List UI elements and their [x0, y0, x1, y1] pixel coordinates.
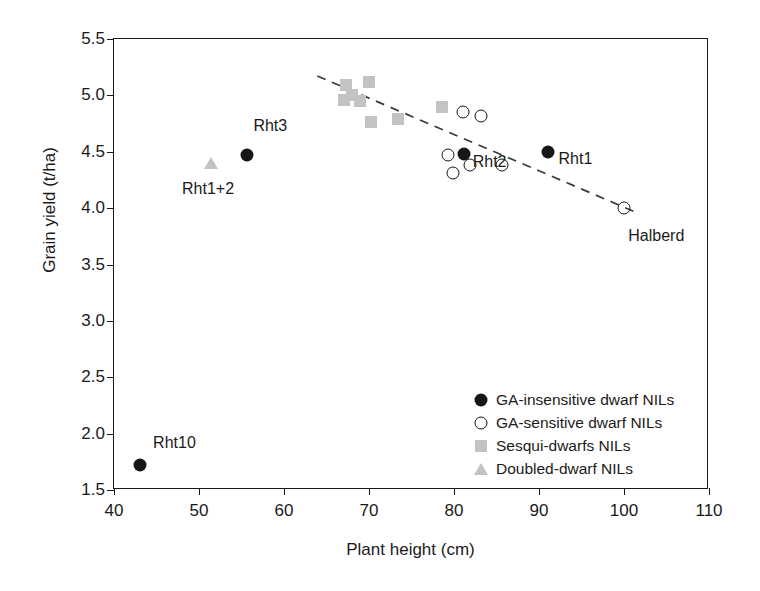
legend-item-2: Sesqui-dwarfs NILs: [466, 434, 706, 457]
point-label-rht10: Rht10: [153, 434, 196, 452]
y-tick-label: 3.0: [81, 311, 105, 331]
y-tick-mark: [107, 377, 114, 378]
y-tick-mark: [107, 152, 114, 153]
y-tick-label: 5.0: [81, 85, 105, 105]
chart-legend: GA-insensitive dwarf NILsGA-sensitive dw…: [466, 388, 706, 480]
y-tick-mark: [107, 434, 114, 435]
point-label-halberd: Halberd: [628, 227, 684, 245]
x-tick-mark: [114, 488, 115, 495]
x-tick-label: 90: [530, 501, 549, 521]
x-tick-label: 40: [105, 501, 124, 521]
open-circle-point: [475, 109, 488, 122]
open-circle-point: [456, 106, 469, 119]
point-label-rht2: Rht2: [473, 153, 507, 171]
y-tick-mark: [107, 265, 114, 266]
y-tick-mark: [107, 321, 114, 322]
x-tick-mark: [369, 488, 370, 495]
point-label-rht1-2: Rht1+2: [182, 180, 234, 198]
x-tick-label: 110: [695, 501, 722, 521]
legend-label: Sesqui-dwarfs NILs: [496, 437, 630, 455]
legend-item-0: GA-insensitive dwarf NILs: [466, 388, 706, 411]
y-tick-mark: [107, 490, 114, 491]
y-axis-title: Grain yield (t/ha): [40, 100, 60, 320]
point-label-rht3: Rht3: [253, 117, 287, 135]
legend-item-1: GA-sensitive dwarf NILs: [466, 411, 706, 434]
x-axis-title: Plant height (cm): [113, 540, 708, 560]
x-tick-mark: [454, 488, 455, 495]
x-tick-mark: [539, 488, 540, 495]
x-tick-label: 60: [275, 501, 294, 521]
open-circle-point: [618, 202, 631, 215]
legend-item-3: Doubled-dwarf NILs: [466, 457, 706, 480]
filled-circle-point: [240, 149, 253, 162]
y-tick-label: 3.5: [81, 255, 105, 275]
legend-filled-circle-icon: [475, 394, 488, 407]
x-tick-mark: [624, 488, 625, 495]
x-tick-mark: [709, 488, 710, 495]
legend-key: [466, 457, 496, 480]
x-tick-label: 50: [190, 501, 209, 521]
legend-label: GA-sensitive dwarf NILs: [496, 414, 662, 432]
legend-label: GA-insensitive dwarf NILs: [496, 391, 674, 409]
square-point: [354, 95, 366, 107]
y-tick-label: 2.0: [81, 424, 105, 444]
y-tick-label: 1.5: [81, 480, 105, 500]
square-point: [436, 101, 448, 113]
x-tick-label: 80: [445, 501, 464, 521]
x-tick-label: 70: [360, 501, 379, 521]
open-circle-point: [442, 149, 455, 162]
filled-circle-point: [133, 459, 146, 472]
y-tick-mark: [107, 39, 114, 40]
square-point: [365, 116, 377, 128]
square-point: [392, 113, 404, 125]
point-label-rht1: Rht1: [559, 150, 593, 168]
x-tick-mark: [199, 488, 200, 495]
triangle-point: [204, 157, 218, 169]
x-tick-mark: [284, 488, 285, 495]
scatter-chart-figure: Grain yield (t/ha) Plant height (cm) 1.5…: [0, 0, 760, 591]
open-circle-point: [447, 167, 460, 180]
legend-key: [466, 411, 496, 434]
legend-triangle-icon: [474, 463, 488, 475]
legend-label: Doubled-dwarf NILs: [496, 460, 633, 478]
y-tick-label: 4.0: [81, 198, 105, 218]
y-tick-label: 4.5: [81, 142, 105, 162]
filled-circle-point: [541, 145, 554, 158]
square-point: [363, 76, 375, 88]
y-tick-label: 5.5: [81, 29, 105, 49]
legend-square-icon: [475, 440, 487, 452]
x-tick-label: 100: [610, 501, 638, 521]
legend-key: [466, 388, 496, 411]
y-tick-mark: [107, 208, 114, 209]
legend-open-circle-icon: [475, 417, 488, 430]
y-tick-mark: [107, 95, 114, 96]
y-tick-label: 2.5: [81, 367, 105, 387]
legend-key: [466, 434, 496, 457]
